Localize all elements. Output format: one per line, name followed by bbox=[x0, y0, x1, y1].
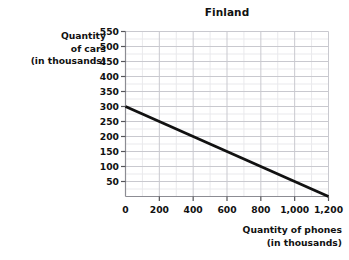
x-tick-label: 600 bbox=[217, 204, 236, 215]
x-tick-label: 200 bbox=[150, 204, 169, 215]
x-tick-label: 0 bbox=[122, 204, 128, 215]
chart-figure: Finland Quantity of cars (in thousands) … bbox=[0, 0, 349, 260]
y-tick-label: 300 bbox=[93, 101, 119, 112]
plot-area bbox=[0, 0, 349, 260]
y-tick-label: 150 bbox=[93, 146, 119, 157]
y-tick-label: 400 bbox=[93, 71, 119, 82]
y-tick-label: 200 bbox=[93, 131, 119, 142]
y-tick-label: 250 bbox=[93, 116, 119, 127]
y-tick-label: 350 bbox=[93, 86, 119, 97]
x-tick-label: 800 bbox=[251, 204, 270, 215]
x-tick-label: 400 bbox=[184, 204, 203, 215]
y-tick-label: 500 bbox=[93, 41, 119, 52]
y-tick-label: 450 bbox=[93, 56, 119, 67]
y-tick-label: 550 bbox=[93, 26, 119, 37]
y-tick-label: 50 bbox=[93, 176, 119, 187]
tick-marks bbox=[121, 32, 329, 202]
y-tick-label: 100 bbox=[93, 161, 119, 172]
x-tick-label: 1,000 bbox=[280, 204, 309, 215]
x-tick-label: 1,200 bbox=[314, 204, 343, 215]
